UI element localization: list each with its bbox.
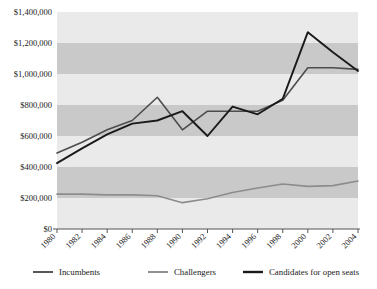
x-axis-tick-label: 1988 (139, 231, 158, 250)
y-axis-tick-label: $200,000 (20, 193, 52, 203)
legend-label: Candidates for open seats (269, 267, 360, 277)
grid-band (57, 105, 358, 136)
x-axis-tick-label: 1992 (189, 231, 208, 250)
y-axis-tick-label: $400,000 (20, 162, 52, 172)
x-axis-tick-label: 1998 (264, 231, 283, 250)
chart-container: $0$200,000$400,000$600,000$800,000$1,000… (0, 0, 377, 289)
y-axis-tick-label: $800,000 (20, 100, 52, 110)
y-axis-tick-label: $600,000 (20, 131, 52, 141)
line-chart: $0$200,000$400,000$600,000$800,000$1,000… (0, 0, 377, 289)
legend-label: Challengers (174, 267, 217, 277)
y-axis-labels: $0$200,000$400,000$600,000$800,000$1,000… (14, 7, 52, 234)
grid-band (57, 198, 358, 229)
grid-bands (57, 12, 358, 229)
y-axis-tick-label: $1,000,000 (14, 69, 52, 79)
y-axis-tick-label: $1,400,000 (14, 7, 52, 17)
x-axis-tick-label: 1986 (114, 231, 133, 250)
x-axis-tick-label: 2000 (289, 231, 308, 250)
y-axis-tick-label: $1,200,000 (14, 38, 52, 48)
grid-band (57, 74, 358, 105)
grid-band (57, 12, 358, 43)
x-axis-tick-label: 1990 (164, 231, 183, 250)
grid-band (57, 167, 358, 198)
chart-legend: IncumbentsChallengersCandidates for open… (33, 267, 360, 277)
x-axis-labels: 1980198219841986198819901992199419961998… (38, 231, 359, 251)
x-axis-tick-label: 1984 (88, 231, 108, 251)
x-axis-tick-label: 1980 (38, 231, 57, 250)
x-axis-tick-label: 1996 (239, 231, 258, 250)
x-axis-tick-label: 1982 (63, 231, 82, 250)
legend-label: Incumbents (59, 267, 101, 277)
x-axis-tick-label: 2002 (314, 231, 333, 250)
grid-band (57, 43, 358, 74)
x-axis-tick-label: 2004 (339, 231, 359, 251)
grid-band (57, 136, 358, 167)
x-axis-tick-label: 1994 (214, 231, 234, 251)
